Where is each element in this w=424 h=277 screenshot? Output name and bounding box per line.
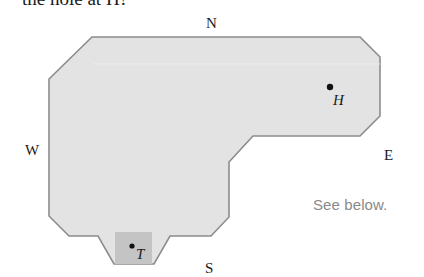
tee-point: [129, 243, 134, 248]
golf-course-diagram: [0, 0, 424, 277]
hole-point: [327, 84, 333, 90]
course-outline: [49, 37, 380, 264]
see-below-note: See below.: [313, 196, 387, 213]
tee-label: T: [136, 246, 144, 262]
hole-label: H: [333, 92, 344, 108]
